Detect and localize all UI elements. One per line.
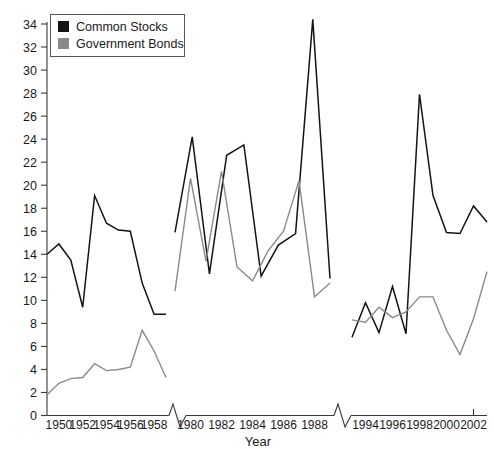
y-tick-label: 22 — [23, 156, 37, 170]
line-chart: 0246810121416182022242628303234 19501952… — [0, 0, 494, 449]
y-tick-label: 14 — [23, 248, 37, 262]
series-line-government-bonds-segment-1 — [47, 330, 166, 394]
y-tick-label: 20 — [23, 179, 37, 193]
y-tick-label: 8 — [30, 317, 37, 331]
y-tick-label: 34 — [23, 18, 37, 32]
y-tick-label: 6 — [30, 340, 37, 354]
x-tick-label: 1984 — [239, 418, 266, 432]
y-tick-label: 26 — [23, 110, 37, 124]
x-tick-label: 1998 — [406, 418, 433, 432]
y-axis-ticks: 0246810121416182022242628303234 — [23, 18, 47, 424]
axis-break-2-icon — [334, 404, 351, 427]
y-tick-label: 12 — [23, 271, 37, 285]
x-tick-label: 1958 — [141, 418, 168, 432]
y-tick-label: 24 — [23, 133, 37, 147]
chart-container: 0246810121416182022242628303234 19501952… — [0, 0, 494, 449]
y-tick-label: 4 — [30, 363, 37, 377]
x-tick-label: 1988 — [301, 418, 328, 432]
legend: Common Stocks Government Bonds — [51, 15, 185, 57]
x-tick-label: 1980 — [177, 418, 204, 432]
legend-label-common-stocks: Common Stocks — [76, 20, 168, 34]
y-tick-label: 16 — [23, 225, 37, 239]
series-line-common-stocks-segment-1 — [47, 196, 166, 315]
y-tick-label: 10 — [23, 294, 37, 308]
x-tick-label: 1986 — [270, 418, 297, 432]
y-tick-label: 32 — [23, 41, 37, 55]
y-tick-label: 0 — [30, 409, 37, 423]
x-tick-label: 1994 — [352, 418, 379, 432]
y-tick-label: 28 — [23, 87, 37, 101]
x-tick-label: 2000 — [433, 418, 460, 432]
y-tick-label: 2 — [30, 386, 37, 400]
x-tick-label: 1982 — [208, 418, 235, 432]
legend-swatch-common-stocks — [58, 21, 69, 32]
series-line-government-bonds-segment-3 — [352, 272, 487, 355]
x-axis-title: Year — [245, 434, 272, 449]
y-tick-label: 30 — [23, 64, 37, 78]
x-axis-tick-labels: 1950195219541956195819801982198419861988… — [46, 418, 488, 432]
y-tick-label: 18 — [23, 202, 37, 216]
legend-swatch-government-bonds — [58, 38, 69, 49]
series-group — [47, 19, 487, 394]
x-tick-label: 2002 — [460, 418, 487, 432]
series-line-common-stocks-segment-3 — [352, 94, 487, 337]
x-tick-label: 1996 — [379, 418, 406, 432]
legend-label-government-bonds: Government Bonds — [76, 37, 184, 51]
